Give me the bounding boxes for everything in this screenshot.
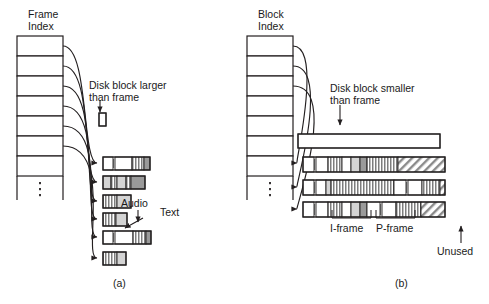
- disk-blocks-b: [298, 134, 445, 217]
- frame-index-row: [17, 36, 63, 56]
- i-frame-label: I-frame: [330, 222, 363, 234]
- block-index-row: [247, 116, 293, 136]
- caption-a: (a): [113, 277, 126, 289]
- block-segment: [117, 252, 126, 265]
- frame-to-block-connectors: [63, 46, 97, 258]
- block-segment: [396, 202, 421, 217]
- block-segment: [342, 202, 351, 217]
- block-segment: [115, 231, 133, 244]
- caption-b: (b): [395, 277, 408, 289]
- block-segment: [111, 176, 117, 189]
- frame-index-ellipsis-dot: [39, 182, 41, 184]
- frame-tick: [406, 182, 407, 193]
- block-segment: [360, 202, 367, 217]
- block-segment: [116, 213, 127, 226]
- disk-block-empty: [298, 134, 440, 148]
- block-segment: [351, 202, 360, 217]
- frame-index-table: [17, 36, 63, 200]
- block-index-ellipsis-dot: [269, 182, 271, 184]
- frame-tick: [314, 204, 315, 215]
- disk-block-1: [303, 157, 445, 172]
- sample-disk-block: [99, 113, 106, 126]
- block-index-ellipsis-dot: [269, 194, 271, 196]
- block-segment: [133, 231, 146, 244]
- unused-label: Unused: [437, 245, 473, 257]
- block-segment: [303, 180, 314, 195]
- block-segment: [131, 176, 145, 189]
- block-segment: [328, 157, 342, 172]
- block-segment: [382, 202, 396, 217]
- callout-a-line1: Disk block larger: [89, 79, 167, 91]
- block-segment: [146, 231, 151, 244]
- disk-block-4: [103, 213, 127, 226]
- callout-b-line1: Disk block smaller: [330, 82, 415, 94]
- audio-label: Audio: [121, 197, 148, 209]
- panel-b: [247, 36, 461, 243]
- figure-root: [0, 0, 489, 304]
- block-index-ellipsis-dot: [269, 188, 271, 190]
- block-segment: [103, 157, 113, 170]
- disk-block-2: [103, 176, 145, 189]
- block-segment: [103, 231, 113, 244]
- p-frame-label: P-frame: [376, 222, 413, 234]
- disk-block-2: [303, 180, 445, 195]
- frame-tick: [113, 159, 114, 168]
- block-segment: [342, 157, 351, 172]
- block-segment: [117, 176, 126, 189]
- block-segment: [360, 157, 367, 172]
- block-segment: [103, 195, 117, 208]
- frame-index-row: [17, 76, 63, 96]
- frame-index-ellipsis-dot: [39, 194, 41, 196]
- block-segment: [408, 180, 422, 195]
- disk-blocks-a: [99, 113, 151, 265]
- block-segment: [99, 113, 106, 126]
- block-segment: [316, 157, 328, 172]
- block-segment: [298, 134, 440, 148]
- frame-index-title-line1: Frame: [28, 8, 58, 20]
- text-label: Text: [160, 206, 179, 218]
- block-segment: [394, 180, 406, 195]
- block-index-row: [247, 76, 293, 96]
- frame-index-row: [17, 156, 63, 176]
- block-segment: [328, 202, 342, 217]
- block-segment: [144, 157, 150, 170]
- block-segment: [103, 252, 117, 265]
- callout-b-line2: than frame: [330, 94, 380, 106]
- block-segment: [103, 213, 116, 226]
- disk-block-5: [103, 231, 151, 244]
- block-segment: [103, 176, 111, 189]
- frame-index-row: [17, 56, 63, 76]
- frame-index-row: [17, 96, 63, 116]
- disk-block-6: [103, 252, 126, 265]
- block-segment: [351, 157, 360, 172]
- block-index-title-line2: Index: [258, 20, 284, 32]
- disk-block-3: [303, 202, 445, 217]
- block-segment: [421, 202, 445, 217]
- block-index-title-line1: Block: [258, 8, 284, 20]
- frame-index-title-line2: Index: [28, 20, 54, 32]
- text-pointer-arrow: [125, 218, 143, 228]
- block-index-row: [247, 136, 293, 156]
- block-segment: [331, 180, 394, 195]
- frame-tick: [314, 159, 315, 170]
- block-index-row: [247, 56, 293, 76]
- frame-tick: [380, 204, 381, 215]
- block-index-row: [247, 96, 293, 116]
- block-segment: [132, 157, 144, 170]
- block-index-row: [247, 156, 293, 176]
- block-segment: [303, 157, 314, 172]
- frame-tick: [113, 233, 114, 242]
- block-segment: [367, 157, 398, 172]
- block-index-table: [247, 36, 293, 200]
- block-segment: [367, 202, 380, 217]
- callout-a-line2: than frame: [89, 91, 139, 103]
- frame-index-row: [17, 136, 63, 156]
- block-segment: [326, 180, 331, 195]
- frame-tick: [314, 182, 315, 193]
- panel-a: [17, 36, 151, 265]
- block-segment: [303, 202, 314, 217]
- block-segment: [316, 202, 328, 217]
- block-segment: [316, 180, 326, 195]
- block-segment: [115, 157, 132, 170]
- block-segment: [126, 176, 131, 189]
